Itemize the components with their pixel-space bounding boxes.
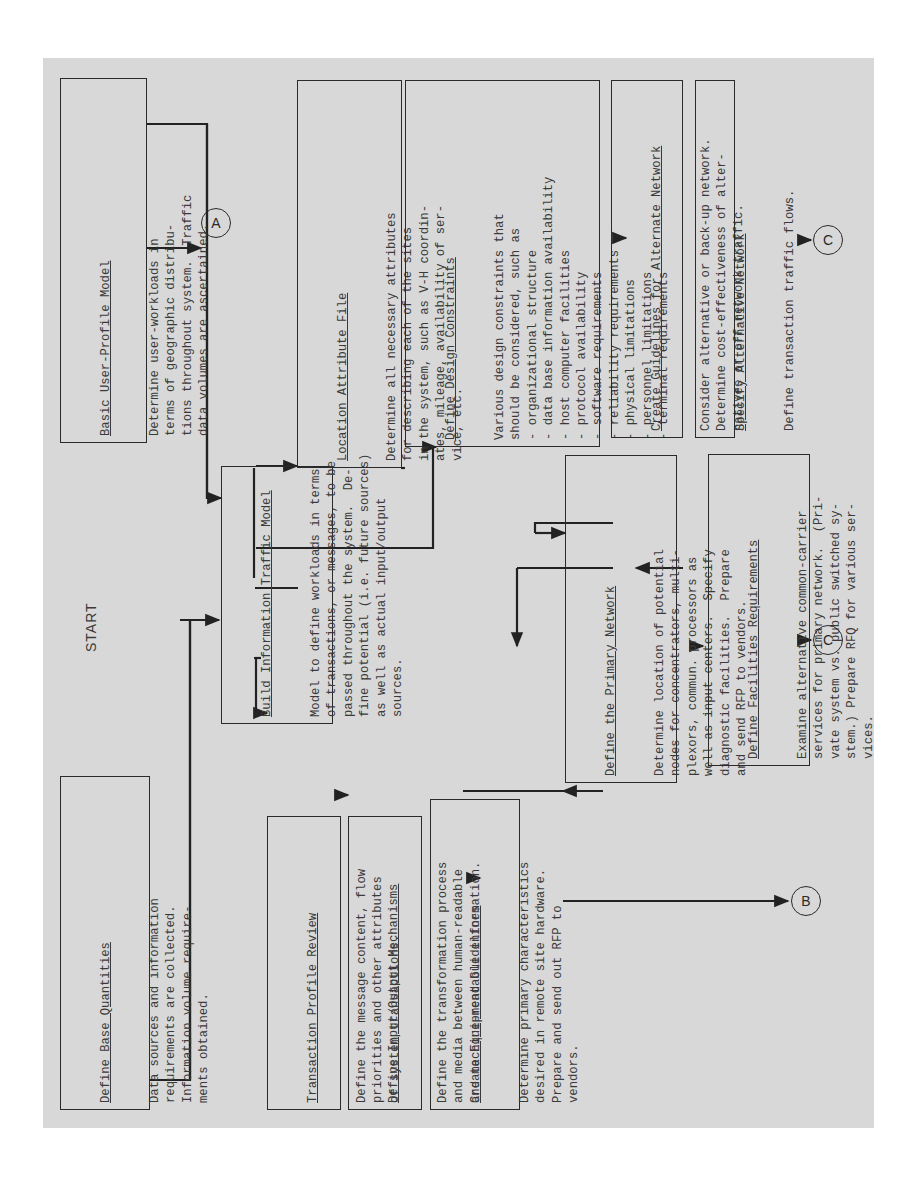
rotated-flowchart-canvas: START Define Base Quantities Data source… <box>43 58 874 1128</box>
connector-b: B <box>791 886 821 916</box>
box-body: Determine user-workloads in terms of geo… <box>147 85 213 436</box>
box-body: Model to define workloads in terms of tr… <box>308 473 406 717</box>
box-create-guidelines-alternate-network: Create Guidelines for Alternate Network … <box>611 80 683 438</box>
box-create-equipment-guidelines: Create Equipment Guidelines Determine pr… <box>430 799 520 1110</box>
box-define-facilities-requirements: Define Facilities Requirements Examine a… <box>708 454 810 766</box>
box-basic-user-profile-model: Basic User-Profile Model Determine user-… <box>60 78 147 443</box>
box-title: Specify Alternative Network <box>733 87 749 431</box>
box-title: Define Input/Output Mechanisms <box>386 823 402 1103</box>
box-define-primary-network: Define the Primary Network Determine loc… <box>565 455 677 783</box>
box-transaction-profile-review: Transaction Profile Review Define the me… <box>267 816 341 1110</box>
box-title: Create Guidelines for Alternate Network <box>649 87 665 431</box>
flowchart-page: START Define Base Quantities Data source… <box>43 58 874 1128</box>
box-title: Define Design Constraints <box>443 87 459 440</box>
box-define-design-constraints: Define Design Constraints Various design… <box>405 80 600 447</box>
start-label: START <box>83 602 99 652</box>
box-define-io-mechanisms: Define Input/Output Mechanisms Define th… <box>348 816 422 1110</box>
box-body: Determine primary characteristics desire… <box>517 806 583 1103</box>
box-title: Transaction Profile Review <box>305 823 321 1103</box>
box-body: Examine alternative common-carrier servi… <box>795 461 874 759</box>
box-location-attribute-file: Location Attribute File Determine all ne… <box>297 80 402 468</box>
connector-a: A <box>201 208 231 238</box>
connector-c-facilities: C <box>813 625 843 655</box>
box-title: Define the Primary Network <box>603 462 619 776</box>
box-title: Define Base Quantities <box>98 783 114 1103</box>
box-build-information-traffic-model: Build Information Traffic Model Model to… <box>221 466 333 724</box>
connector-c-alternative: C <box>813 225 843 255</box>
box-body: Define transaction traffic flows. <box>782 87 798 431</box>
box-title: Build Information Traffic Model <box>259 473 275 717</box>
box-specify-alternative-network: Specify Alternative Network Define trans… <box>695 80 735 438</box>
box-title: Basic User-Profile Model <box>98 85 114 436</box>
box-title: Location Attribute File <box>335 87 351 461</box>
box-title: Define Facilities Requirements <box>746 461 762 759</box>
box-define-base-quantities: Define Base Quantities Data sources and … <box>60 776 150 1110</box>
box-body: Data sources and information requirement… <box>147 783 213 1103</box>
box-title: Create Equipment Guidelines <box>468 806 484 1103</box>
